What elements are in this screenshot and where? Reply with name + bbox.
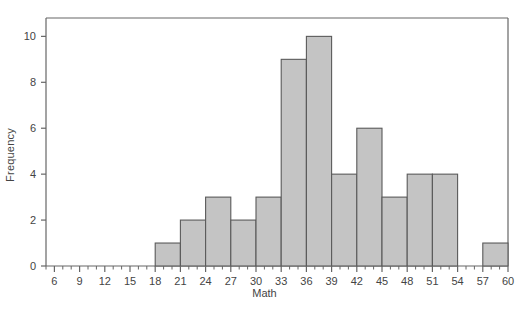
histogram-bar [407,174,432,266]
y-tick-label: 4 [30,168,36,180]
y-tick-label: 6 [30,122,36,134]
x-tick-label: 57 [477,275,489,287]
x-tick-label: 36 [300,275,312,287]
y-tick-label: 8 [30,76,36,88]
histogram-plot: 691215182124273033363942454851545760 024… [0,0,529,309]
histogram-bar [256,197,281,266]
x-tick-label: 60 [502,275,514,287]
x-tick-label: 15 [124,275,136,287]
x-tick-label: 9 [77,275,83,287]
x-tick-label: 39 [325,275,337,287]
histogram-bar [483,243,508,266]
y-tick-label: 10 [24,30,36,42]
x-tick-label: 45 [376,275,388,287]
x-tick-label: 54 [451,275,463,287]
histogram-bar [231,220,256,266]
x-tick-label: 42 [351,275,363,287]
histogram-bar [281,59,306,266]
x-tick-label: 6 [51,275,57,287]
x-tick-label: 30 [250,275,262,287]
histogram-figure: Frequency 691215182124273033363942454851… [0,0,529,309]
histogram-bar [206,197,231,266]
x-axis: 691215182124273033363942454851545760 [46,266,514,287]
x-tick-label: 18 [149,275,161,287]
histogram-bar [357,128,382,266]
y-tick-label: 0 [30,260,36,272]
histogram-bar [155,243,180,266]
x-tick-label: 21 [174,275,186,287]
histogram-bar [306,36,331,266]
x-tick-label: 33 [275,275,287,287]
histogram-bar [432,174,457,266]
histogram-bar [382,197,407,266]
histogram-bars [155,36,508,266]
x-tick-label: 48 [401,275,413,287]
x-tick-label: 24 [199,275,211,287]
x-tick-label: 27 [225,275,237,287]
x-tick-label: 12 [99,275,111,287]
y-axis: 0246810 [24,30,46,272]
histogram-bar [332,174,357,266]
x-tick-label: 51 [426,275,438,287]
y-tick-label: 2 [30,214,36,226]
x-axis-title: Math [0,287,529,299]
histogram-bar [180,220,205,266]
